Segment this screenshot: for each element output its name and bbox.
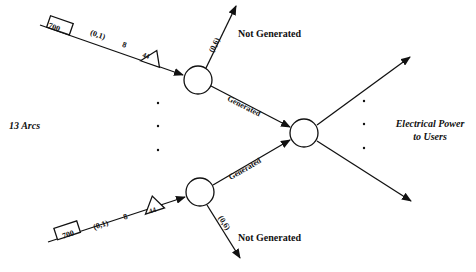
bottom-not-generated-label: Not Generated	[238, 232, 301, 243]
top-not-generated-label: Not Generated	[238, 28, 301, 39]
merge-node	[290, 119, 318, 147]
left-arcs-label: 13 Arcs	[9, 120, 40, 131]
top-node	[184, 66, 212, 94]
output-arc-top	[317, 57, 410, 125]
output-arc-bottom	[317, 141, 411, 201]
bottom-node	[186, 178, 214, 206]
top-not-generated-arc	[206, 6, 236, 68]
right-output-label-line1: Electrical Power	[395, 118, 465, 129]
right-output-label-line2: to Users	[395, 131, 465, 142]
